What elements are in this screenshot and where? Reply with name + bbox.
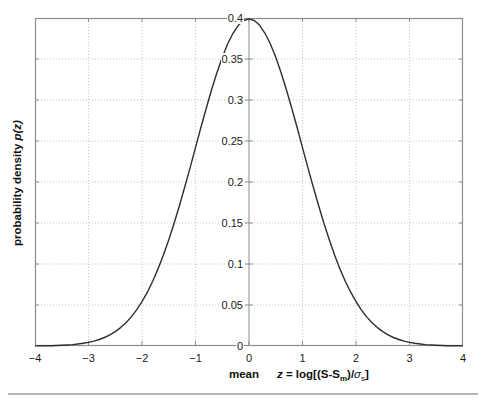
pdf-curve-chart xyxy=(35,18,463,346)
x-tick-label: 4 xyxy=(460,352,466,364)
y-tick-label: 0.3 xyxy=(227,94,244,106)
sigma-symbol: σ xyxy=(354,368,361,380)
x-tick-label: −2 xyxy=(136,352,149,364)
x-tick-label: 1 xyxy=(299,352,305,364)
y-tick-label: 0.2 xyxy=(227,176,244,188)
y-tick-label: 0.15 xyxy=(221,217,244,229)
y-tick-label: 0 xyxy=(236,340,244,352)
formula-part3: ] xyxy=(365,368,369,380)
x-tick-label: −1 xyxy=(189,352,202,364)
formula-part1: = log[(S-S xyxy=(283,368,340,380)
y-tick-label: 0.25 xyxy=(221,135,244,147)
page-divider-rule xyxy=(8,393,478,395)
formula-sub-m: m xyxy=(340,374,347,383)
y-tick-label: 0.1 xyxy=(227,258,244,270)
x-tick-label: 0 xyxy=(246,352,252,364)
x-tick-label: 2 xyxy=(353,352,359,364)
y-tick-label: 0.4 xyxy=(227,12,244,24)
x-tick-label: −3 xyxy=(82,352,95,364)
figure-page: probability density p(z) 00.050.10.150.2… xyxy=(0,0,483,407)
y-tick-label: 0.05 xyxy=(221,299,244,311)
x-axis-mean-label: mean xyxy=(229,368,259,380)
y-tick-label: 0.35 xyxy=(221,53,244,65)
x-tick-label: −4 xyxy=(29,352,42,364)
x-axis-formula-label: z = log[(S-Sm)/σs] xyxy=(277,368,369,383)
y-axis-title-math: p(z) xyxy=(11,120,23,140)
plot-area: 00.050.10.150.20.250.30.350.4−4−3−2−1012… xyxy=(35,18,463,346)
x-tick-label: 3 xyxy=(406,352,412,364)
y-axis-title-text: probability density xyxy=(11,141,23,246)
y-axis-title: probability density p(z) xyxy=(11,120,23,246)
